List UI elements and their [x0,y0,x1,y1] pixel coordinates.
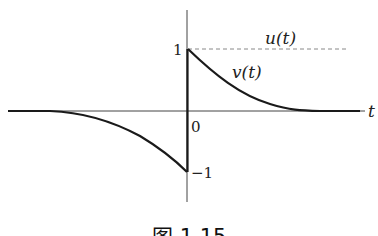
origin-label: 0 [191,118,201,136]
u-label: u(t) [265,28,296,48]
figure-canvas: u(t) v(t) t 0 1 −1 图 1.15 [0,0,378,236]
x-axis-label: t [368,101,375,121]
y-tick-neg-label: −1 [191,164,213,182]
v-curve-negative [8,111,187,172]
v-curve-positive [188,49,360,111]
y-tick-pos-label: 1 [173,41,183,59]
v-label: v(t) [232,62,262,82]
figure-caption: 图 1.15 [152,225,226,236]
